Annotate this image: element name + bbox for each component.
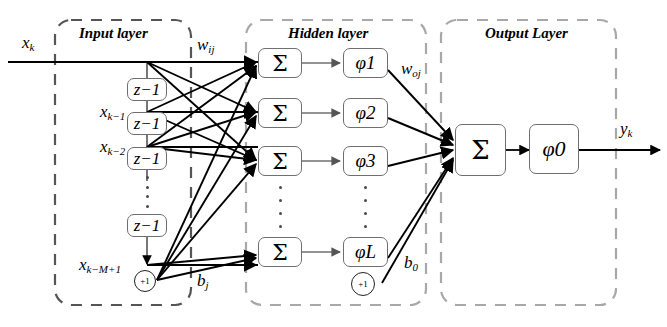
weight-oj-name: w — [401, 59, 412, 78]
hidden-activation-box-1: φ1 — [343, 48, 388, 78]
weight-ij-sub: ij — [208, 43, 214, 55]
hidden-sum-ellipsis — [279, 186, 282, 228]
hidden-sum-box-L-symbol: Σ — [272, 240, 288, 265]
tap1-signal-name: x — [100, 102, 108, 121]
hidden-activation-box-L: φL — [343, 237, 388, 267]
hidden-activation-box-3-label: φ3 — [355, 150, 375, 172]
tap2-signal-sub: k−2 — [108, 145, 126, 157]
tap1-signal-label: xk−1 — [100, 103, 125, 122]
hidden-activation-box-L-symbol: φ — [355, 241, 366, 262]
input-layer-title: Input layer — [79, 26, 148, 41]
output-signal-name: y — [620, 119, 628, 138]
delay-box-3: z−1 — [127, 147, 167, 170]
delay-box-2-exponent: −1 — [140, 114, 160, 133]
hidden-sum-box-2: Σ — [258, 98, 302, 128]
hidden-sum-box-L: Σ — [258, 237, 302, 267]
hidden-activation-box-2-label: φ2 — [355, 102, 375, 124]
output-activation-box-symbol: φ — [542, 136, 554, 161]
delay-box-4-label: z−1 — [134, 216, 161, 236]
input-bias-unit: +1 — [134, 270, 156, 292]
hidden-sum-box-1-symbol: Σ — [272, 51, 288, 76]
weight-ij-name: w — [197, 35, 208, 54]
output-activation-box: φ0 — [529, 124, 579, 174]
hidden-to-output-connections — [388, 70, 453, 258]
hidden-activation-box-1-index: 1 — [366, 52, 376, 73]
hidden-activation-box-1-symbol: φ — [355, 52, 366, 73]
output-activation-box-index: 0 — [555, 136, 566, 161]
hidden-sum-box-3-symbol: Σ — [272, 149, 288, 174]
output-signal-sub: k — [628, 127, 633, 139]
output-layer-title: Output Layer — [485, 26, 568, 41]
bias-j-name: b — [197, 271, 206, 290]
hidden-activation-box-1-label: φ1 — [355, 52, 375, 74]
tap2-signal-label: xk−2 — [100, 138, 125, 157]
bias-j-label: bj — [197, 272, 209, 291]
hidden-bias-unit: +1 — [351, 272, 375, 296]
input-signal-sub: k — [30, 41, 35, 53]
bias-0-label: b0 — [404, 254, 418, 273]
bias-0-sub: 0 — [413, 261, 419, 273]
tap2-signal-name: x — [100, 137, 108, 156]
hidden-sum-box-2-symbol: Σ — [272, 101, 288, 126]
delay-box-2-label: z−1 — [134, 114, 161, 134]
hidden-bias-unit-label: +1 — [358, 279, 368, 289]
hidden-activation-ellipsis — [364, 186, 367, 228]
hidden-activation-box-3-symbol: φ — [355, 150, 366, 171]
delay-chain-ellipsis — [146, 176, 149, 208]
weight-ij-label: wij — [197, 36, 214, 55]
hidden-activation-box-L-label: φL — [355, 241, 376, 263]
output-signal-label: yk — [620, 120, 632, 139]
hidden-sum-box-1: Σ — [258, 48, 302, 78]
input-bias-unit-label: +1 — [140, 276, 150, 286]
input-signal-name: x — [22, 33, 30, 52]
input-signal-label: xk — [22, 34, 34, 53]
hidden-activation-box-3-index: 3 — [366, 150, 376, 171]
delay-box-1-label: z−1 — [134, 80, 161, 100]
hidden-activation-box-2: φ2 — [343, 98, 388, 128]
tap1-signal-sub: k−1 — [108, 110, 126, 122]
bias-0-name: b — [404, 253, 413, 272]
output-sum-box-symbol: Σ — [471, 135, 489, 165]
bias-j-sub: j — [206, 279, 209, 291]
delay-box-2: z−1 — [127, 112, 167, 135]
hidden-sum-box-3: Σ — [258, 146, 302, 176]
tapM-signal-label: xk−M+1 — [79, 256, 121, 275]
weight-oj-sub: oj — [412, 67, 421, 79]
input-bias-connections — [157, 66, 256, 280]
hidden-sum-to-activation-arrows — [302, 63, 340, 252]
delay-box-1: z−1 — [127, 78, 167, 101]
delay-box-4: z−1 — [127, 214, 167, 237]
tapM-signal-sub: k−M+1 — [87, 263, 121, 275]
output-sum-box: Σ — [455, 124, 506, 176]
hidden-activation-box-2-symbol: φ — [355, 102, 366, 123]
delay-box-3-label: z−1 — [134, 149, 161, 169]
delay-box-3-exponent: −1 — [140, 149, 160, 168]
weight-oj-label: woj — [401, 60, 421, 79]
hidden-activation-box-L-index: L — [365, 241, 376, 262]
tapM-signal-name: x — [79, 255, 87, 274]
delay-box-4-exponent: −1 — [140, 216, 160, 235]
hidden-layer-title: Hidden layer — [288, 26, 368, 41]
output-activation-box-label: φ0 — [542, 136, 565, 162]
hidden-activation-box-3: φ3 — [343, 146, 388, 176]
neural-network-diagram: Input layer Hidden layer Output Layer xk… — [0, 0, 667, 327]
hidden-activation-box-2-index: 2 — [366, 102, 376, 123]
delay-box-1-exponent: −1 — [140, 80, 160, 99]
